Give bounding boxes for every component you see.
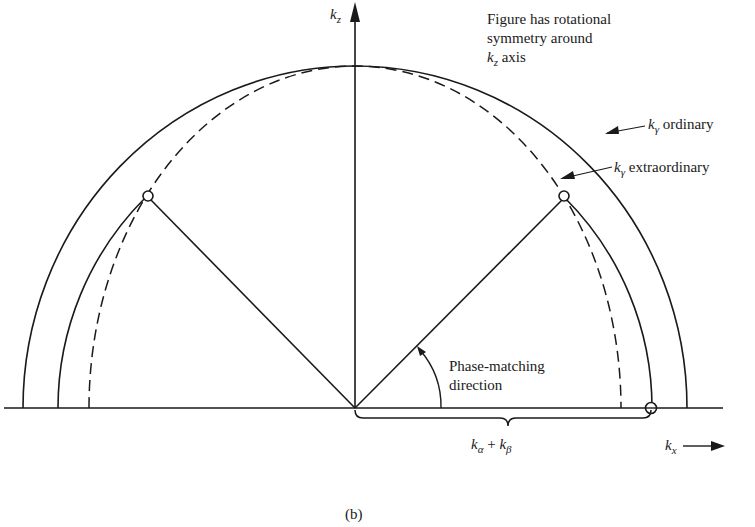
kz-axis-label: kz (330, 6, 341, 24)
phase-matching-diagram (0, 0, 755, 527)
ordinary-label: kγ ordinary (648, 116, 714, 134)
angle-arrow-icon (417, 346, 426, 356)
extraordinary-label: kγ extraordinary (614, 159, 710, 177)
symmetry-note: Figure has rotational symmetry around kz… (487, 10, 611, 68)
sum-brace (355, 410, 651, 426)
angle-arc (420, 350, 441, 408)
intersection-point-right (559, 191, 569, 201)
kx-arrow-icon (711, 441, 725, 451)
pump-sum-label: kα + kβ (471, 436, 512, 454)
figure-caption: (b) (345, 506, 363, 523)
extraordinary-arrow-icon (560, 171, 575, 179)
kz-arrow-icon (350, 2, 360, 22)
intersection-point-left (143, 191, 153, 201)
kx-axis-label: kx (665, 437, 677, 455)
phase-matching-line-left (150, 199, 355, 408)
phase-matching-label: Phase-matching direction (449, 357, 545, 395)
ordinary-arrow-icon (605, 126, 619, 134)
